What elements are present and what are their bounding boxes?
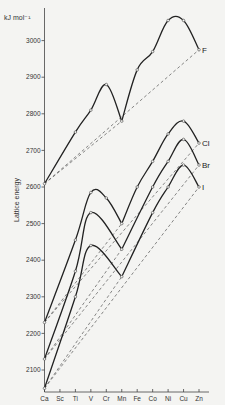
- y-tick-label: 2700: [26, 147, 41, 154]
- data-point: [182, 138, 185, 141]
- y-tick-label: 3000: [26, 37, 41, 44]
- data-point: [120, 120, 123, 123]
- reference-lines: [45, 50, 200, 389]
- data-point: [43, 182, 46, 185]
- data-point: [43, 358, 46, 361]
- series-label-cl: Cl: [202, 139, 210, 148]
- curve-i: [122, 165, 199, 277]
- curves: [43, 16, 200, 389]
- data-point: [151, 211, 154, 214]
- y-tick-label: 2300: [26, 293, 41, 300]
- curve-i: [45, 245, 122, 388]
- data-point: [43, 387, 46, 390]
- x-tick-label: Co: [148, 395, 157, 402]
- x-tick-label: Sc: [56, 395, 64, 402]
- x-tick-label: Ca: [40, 395, 49, 402]
- series-label-f: F: [202, 46, 207, 55]
- series-label-i: I: [202, 183, 204, 192]
- axes: 2100220023002400250026002700280029003000…: [4, 8, 209, 402]
- curve-f: [122, 16, 199, 121]
- y-tick-label: 2200: [26, 330, 41, 337]
- data-point: [182, 19, 185, 22]
- x-tick-label: Cr: [103, 395, 111, 402]
- data-point: [182, 120, 185, 123]
- y-tick-label: 2800: [26, 110, 41, 117]
- y-tick-label: 2400: [26, 256, 41, 263]
- x-tick-label: Ni: [165, 395, 171, 402]
- data-point: [198, 48, 201, 51]
- labels: FClBrI: [202, 46, 210, 192]
- data-point: [90, 109, 93, 112]
- data-point: [43, 321, 46, 324]
- y-tick-label: 2100: [26, 366, 41, 373]
- reference-line-cl: [45, 224, 122, 323]
- data-point: [74, 131, 77, 134]
- data-point: [105, 83, 108, 86]
- data-point: [74, 296, 77, 299]
- data-point: [182, 164, 185, 167]
- data-point: [90, 191, 93, 194]
- x-tick-label: Fe: [133, 395, 141, 402]
- data-point: [167, 160, 170, 163]
- data-point: [198, 142, 201, 145]
- data-point: [120, 222, 123, 225]
- lattice-energy-chart: 2100220023002400250026002700280029003000…: [0, 0, 225, 405]
- data-point: [167, 19, 170, 22]
- y-tick-label: 2900: [26, 73, 41, 80]
- data-point: [167, 133, 170, 136]
- series-label-br: Br: [202, 161, 210, 170]
- y-unit-label: kJ mol⁻¹: [4, 14, 31, 21]
- x-tick-label: V: [89, 395, 94, 402]
- data-point: [90, 211, 93, 214]
- curve-f: [45, 84, 122, 183]
- data-point: [136, 69, 139, 72]
- x-tick-label: Cu: [179, 395, 188, 402]
- y-axis-title: Lattice energy: [13, 178, 21, 222]
- data-point: [90, 244, 93, 247]
- x-tick-label: Zn: [195, 395, 203, 402]
- curve-br: [45, 212, 122, 359]
- data-point: [74, 270, 77, 273]
- curve-cl: [45, 189, 122, 322]
- data-point: [136, 186, 139, 189]
- x-tick-label: Ti: [73, 395, 78, 402]
- data-point: [167, 186, 170, 189]
- data-point: [120, 248, 123, 251]
- y-tick-label: 2600: [26, 183, 41, 190]
- data-point: [74, 239, 77, 242]
- reference-line-f: [45, 121, 122, 184]
- data-point: [151, 160, 154, 163]
- data-point: [198, 186, 201, 189]
- data-point: [105, 197, 108, 200]
- data-point: [198, 164, 201, 167]
- data-point: [120, 275, 123, 278]
- x-tick-label: Mn: [117, 395, 126, 402]
- reference-line-f: [45, 50, 200, 184]
- data-point: [151, 186, 154, 189]
- reference-line-i: [45, 187, 200, 388]
- data-point: [151, 50, 154, 53]
- y-tick-label: 2500: [26, 220, 41, 227]
